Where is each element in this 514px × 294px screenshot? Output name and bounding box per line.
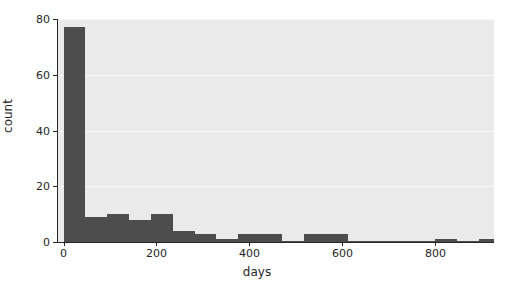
histogram-figure: 0200400600800 020406080 days count — [0, 0, 514, 294]
gridline — [57, 75, 494, 76]
bar — [326, 234, 348, 242]
x-axis-line — [57, 242, 494, 243]
gridline — [57, 19, 494, 20]
x-tick-label: 400 — [239, 247, 260, 260]
y-tick-mark — [53, 242, 57, 243]
x-tick-mark — [156, 242, 157, 246]
x-tick-label: 200 — [146, 247, 167, 260]
bar — [195, 234, 217, 242]
x-tick-mark — [64, 242, 65, 246]
bar — [260, 234, 282, 242]
x-tick-label: 800 — [425, 247, 446, 260]
bar — [129, 220, 151, 242]
gridline — [57, 186, 494, 187]
bar — [151, 214, 173, 242]
bar — [107, 214, 129, 242]
y-tick-mark — [53, 186, 57, 187]
x-tick-mark — [435, 242, 436, 246]
y-tick-label: 0 — [0, 236, 50, 249]
bar — [173, 231, 195, 242]
x-axis-label: days — [0, 265, 514, 279]
gridline — [57, 131, 494, 132]
y-tick-mark — [53, 75, 57, 76]
y-tick-mark — [53, 19, 57, 20]
bar — [64, 27, 86, 242]
y-axis-label: count — [1, 86, 15, 146]
bar — [85, 217, 107, 242]
bar — [238, 234, 260, 242]
x-tick-mark — [342, 242, 343, 246]
x-tick-mark — [249, 242, 250, 246]
y-axis-line — [57, 19, 58, 242]
y-tick-label: 60 — [0, 68, 50, 81]
x-tick-label: 0 — [60, 247, 67, 260]
bar — [304, 234, 326, 242]
y-tick-mark — [53, 131, 57, 132]
y-tick-label: 20 — [0, 180, 50, 193]
x-tick-label: 600 — [332, 247, 353, 260]
plot-area — [57, 19, 494, 242]
y-tick-label: 80 — [0, 13, 50, 26]
